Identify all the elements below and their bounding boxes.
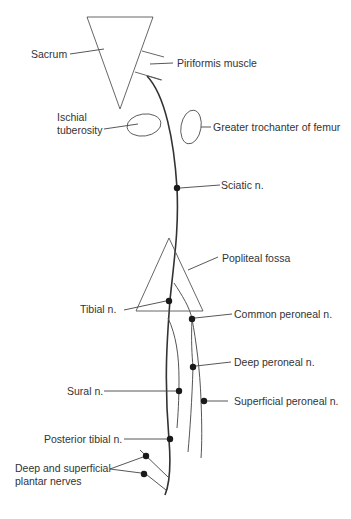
posterior-tibial-dot [167, 436, 173, 442]
deep-peroneal-label: Deep peroneal n. [234, 356, 315, 368]
tibial-label: Tibial n. [80, 303, 116, 315]
superficial-peroneal-dot [201, 398, 207, 404]
sciatic-nerve-trunk [147, 76, 177, 495]
superficial-plantar-leader [110, 469, 141, 473]
popliteal-label: Popliteal fossa [222, 252, 290, 264]
plantar-label-line2: plantar nerves [15, 475, 82, 487]
sacrum-shape [87, 17, 153, 109]
common-peroneal-dot [189, 316, 195, 322]
superficial-plantar-dot [141, 471, 147, 477]
sural-branch [168, 318, 179, 428]
deep-plantar-dot [143, 453, 149, 459]
posterior-tibial-label: Posterior tibial n. [44, 433, 122, 445]
sciatic-nerve-diagram: Sacrum Piriformis muscle Ischial tuberos… [0, 0, 351, 519]
piriformis-label: Piriformis muscle [177, 57, 257, 69]
popliteal-leader [188, 257, 218, 270]
sural-label: Sural n. [67, 385, 103, 397]
deep-peroneal-branch [188, 319, 193, 452]
common-peroneal-leader [195, 314, 232, 318]
greater-trochanter-label: Greater trochanter of femur [213, 121, 341, 133]
deep-peroneal-dot [190, 364, 196, 370]
common-peroneal-label: Common peroneal n. [234, 308, 332, 320]
plantar-label-line1: Deep and superficial [15, 462, 111, 474]
superficial-peroneal-label: Superficial peroneal n. [234, 395, 338, 407]
ischial-leader [104, 124, 138, 129]
common-peroneal-branch [174, 283, 202, 458]
piriformis-leader [150, 63, 173, 64]
sural-dot [176, 388, 182, 394]
tibial-leader [124, 301, 166, 310]
greater-trochanter-shape [178, 109, 204, 146]
ischial-label-line2: tuberosity [57, 124, 103, 136]
deep-plantar-leader [110, 457, 143, 469]
tibial-dot [166, 298, 172, 304]
sacrum-label: Sacrum [31, 48, 67, 60]
sciatic-label: Sciatic n. [221, 179, 264, 191]
ischial-label-line1: Ischial [57, 111, 87, 123]
sciatic-leader [180, 185, 220, 188]
deep-peroneal-leader [196, 362, 231, 366]
sciatic-dot [174, 185, 180, 191]
